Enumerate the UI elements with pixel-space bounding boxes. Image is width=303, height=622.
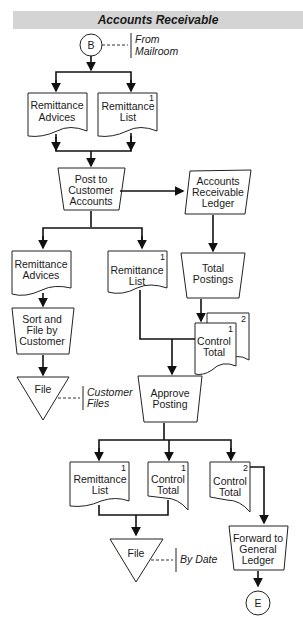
annotation-text: By Date (180, 553, 218, 565)
process-label: Posting (152, 398, 187, 410)
annotation-text: Files (87, 397, 110, 409)
ledger-label: Ledger (202, 197, 235, 209)
process-total-postings: Total Postings (181, 253, 245, 298)
copy-number: 2 (243, 463, 248, 473)
copy-number: 1 (121, 463, 126, 473)
document-remittance-advices-2: Remittance Advices (12, 251, 71, 295)
connector-b-label: B (87, 39, 94, 51)
process-label: Accounts (69, 195, 112, 207)
end-connector: E (246, 591, 270, 615)
document-remittance-advices: Remittance Advices (28, 93, 87, 136)
doc-label: Total (157, 484, 179, 496)
start-connector: B (80, 34, 102, 56)
process-approve-posting: Approve Posting (138, 376, 202, 422)
connector-e-label: E (254, 597, 261, 609)
doc-label: Advices (39, 111, 76, 123)
file-label: File (35, 383, 52, 395)
process-post-to-customer-accounts: Post to Customer Accounts (58, 168, 125, 210)
copy-number: 1 (160, 252, 165, 262)
document-control-total-stack: 2 1 Control Total (195, 313, 249, 375)
doc-label: List (120, 111, 136, 123)
annotation-customer-files: Customer Files (58, 386, 133, 410)
file-label: File (128, 547, 145, 559)
copy-number: 2 (241, 314, 246, 324)
document-control-total-2: 2 Control Total (210, 462, 250, 512)
annotation-from-mailroom: From Mailroom (102, 33, 178, 58)
process-label: Postings (193, 273, 233, 285)
doc-label: Advices (23, 269, 60, 281)
annotation-text: From (135, 33, 160, 45)
document-remittance-list: 1 Remittance List (98, 93, 157, 136)
ledger-accounts-receivable: Accounts Receivable Ledger (185, 170, 251, 214)
copy-number: 1 (181, 463, 186, 473)
copy-number: 1 (228, 324, 233, 334)
doc-label: List (92, 484, 108, 496)
doc-label: List (129, 275, 145, 287)
doc-label: Remittance (30, 99, 83, 111)
process-label: Ledger (242, 554, 275, 566)
annotation-text: Mailroom (135, 45, 178, 57)
process-label: Customer (19, 335, 65, 347)
document-remittance-list-3: 1 Remittance List (70, 462, 129, 506)
process-forward-to-general-ledger: Forward to General Ledger (229, 526, 288, 570)
process-sort-and-file: Sort and File by Customer (12, 308, 74, 354)
doc-label: Total (219, 486, 241, 498)
flowchart-canvas: B From Mailroom Remittance Advices 1 Rem… (0, 0, 303, 622)
file-customer: File (17, 377, 69, 420)
annotation-by-date: By Date (151, 548, 218, 572)
flowchart: Accounts Receivable B From Mailroom Remi… (0, 0, 303, 622)
document-remittance-list-2: 1 Remittance List (108, 251, 167, 293)
file-by-date: File (110, 539, 163, 582)
doc-label: Total (203, 346, 225, 358)
